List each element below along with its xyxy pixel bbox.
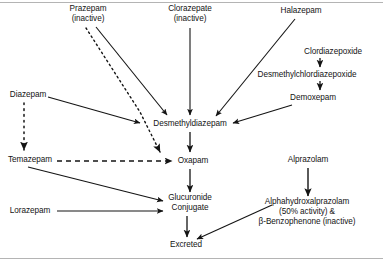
edge-demoxepam-to-desmethyldiazepam <box>233 105 292 123</box>
node-alphahydroxalprazolam: Alphahydroxalprazolam (50% activity) & β… <box>259 197 356 228</box>
node-diazepam-line1: Diazepam <box>10 90 46 100</box>
edge-temazepam-to-glucuronide <box>28 167 163 201</box>
edge-prazepam-to-oxapam <box>86 28 160 152</box>
node-alprazolam: Alprazolam <box>288 155 328 165</box>
node-glucuronide-line2: Conjugate <box>168 203 212 213</box>
edge-diazepam-to-desmethyldiazepam <box>48 97 140 123</box>
node-clordiazepoxide-line1: Clordiazepoxide <box>304 47 362 57</box>
node-prazepam-line2: (inactive) <box>70 14 107 24</box>
node-desmethylchlordiazepoxide: Desmethylchlordiazepoxide <box>258 70 357 80</box>
node-diazepam: Diazepam <box>10 90 46 100</box>
node-clordiazepoxide: Clordiazepoxide <box>304 47 362 57</box>
node-halazepam-line1: Halazepam <box>281 6 322 16</box>
node-glucuronide-line1: Glucuronide <box>168 193 212 203</box>
node-alphahydroxy-line2: (50% activity) & <box>259 207 356 217</box>
node-desmethyldiazepam: Desmethyldiazepam <box>153 119 226 129</box>
node-desmethyldiazepam-line1: Desmethyldiazepam <box>153 119 226 129</box>
node-oxapam: Oxapam <box>178 156 209 166</box>
node-excreted-line1: Excreted <box>170 240 202 250</box>
node-prazepam-line1: Prazepam <box>70 4 107 14</box>
node-temazepam: Temazepam <box>8 155 52 165</box>
edge-prazepam-to-desmethyldiazepam <box>96 27 167 115</box>
metabolic-pathway-diagram: Prazepam (inactive) Clorazepate (inactiv… <box>0 0 383 262</box>
node-demoxepam: Demoxepam <box>290 93 336 103</box>
node-temazepam-line1: Temazepam <box>8 155 52 165</box>
node-desmethylchlordiazepoxide-line1: Desmethylchlordiazepoxide <box>258 70 357 80</box>
node-oxapam-line1: Oxapam <box>178 156 209 166</box>
node-halazepam: Halazepam <box>281 6 322 16</box>
node-alphahydroxy-line3: β-Benzophenone (inactive) <box>259 217 356 227</box>
node-prazepam: Prazepam (inactive) <box>70 4 107 24</box>
edge-halazepam-to-desmethyldiazepam <box>216 19 295 116</box>
node-clorazepate-line1: Clorazepate <box>168 4 212 14</box>
node-lorazepam-line1: Lorazepam <box>10 206 51 216</box>
node-alphahydroxy-line1: Alphahydroxalprazolam <box>259 197 356 207</box>
node-excreted: Excreted <box>170 240 202 250</box>
node-lorazepam: Lorazepam <box>10 206 51 216</box>
node-clorazepate: Clorazepate (inactive) <box>168 4 212 24</box>
node-clorazepate-line2: (inactive) <box>168 14 212 24</box>
node-demoxepam-line1: Demoxepam <box>290 93 336 103</box>
node-alprazolam-line1: Alprazolam <box>288 155 328 165</box>
node-glucuronide-conjugate: Glucuronide Conjugate <box>168 193 212 213</box>
